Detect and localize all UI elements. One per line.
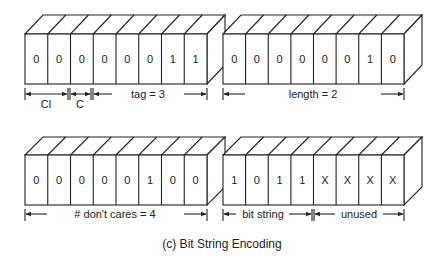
bit-cell: 0 [277, 53, 283, 65]
bit-cell: 0 [193, 174, 199, 186]
bit-cell: 1 [170, 53, 176, 65]
bit-cell: 1 [299, 174, 305, 186]
bit-cell: 1 [231, 174, 237, 186]
bit-cell: 0 [231, 53, 237, 65]
bit-cell: 0 [56, 53, 62, 65]
bit-cell: X [366, 174, 374, 186]
bit-string-label: bit string [242, 208, 284, 220]
bit-cell: 0 [102, 174, 108, 186]
bit-cell: 0 [170, 174, 176, 186]
bit-cell: 1 [277, 174, 283, 186]
tag-label: tag = 3 [131, 88, 165, 100]
cl-label: Cl [41, 98, 51, 110]
bit-string-encoding-diagram: 0 0 0 0 0 0 1 1 Cl C tag = 3 [0, 0, 445, 262]
bit-cell: 0 [102, 53, 108, 65]
bit-cell: 0 [33, 53, 39, 65]
bit-cell: 0 [56, 174, 62, 186]
bit-cell: 0 [124, 53, 130, 65]
bit-cell: X [389, 174, 397, 186]
c-label: C [76, 98, 84, 110]
bit-cell: 0 [254, 53, 260, 65]
bit-cell: 0 [79, 174, 85, 186]
figure-caption: (c) Bit String Encoding [162, 237, 281, 251]
bit-cell: 1 [193, 53, 199, 65]
bit-cell: 1 [367, 53, 373, 65]
bit-cell: X [344, 174, 352, 186]
bit-cell: 0 [322, 53, 328, 65]
bit-cell: 0 [147, 53, 153, 65]
byte-block-length: 0 0 0 0 0 0 1 0 length = 2 [223, 15, 422, 100]
bit-cell: 0 [390, 53, 396, 65]
byte-block-dont-cares: 0 0 0 0 0 1 0 0 # don't cares = 4 [25, 137, 225, 221]
bit-cell: 1 [147, 174, 153, 186]
byte-block-tag: 0 0 0 0 0 0 1 1 Cl C tag = 3 [25, 15, 225, 110]
bit-cell: X [321, 174, 329, 186]
bit-cell: 0 [344, 53, 350, 65]
dont-cares-label: # don't cares = 4 [74, 208, 155, 220]
bit-cell: 0 [33, 174, 39, 186]
bit-cell: 0 [79, 53, 85, 65]
length-label: length = 2 [289, 88, 338, 100]
field-markers-tag [25, 88, 207, 100]
byte-block-bit-string: 1 0 1 1 X X X X bit string unused [223, 137, 422, 221]
unused-label: unused [341, 208, 377, 220]
bit-cell: 0 [254, 174, 260, 186]
bit-cell: 0 [124, 174, 130, 186]
bit-cell: 0 [299, 53, 305, 65]
